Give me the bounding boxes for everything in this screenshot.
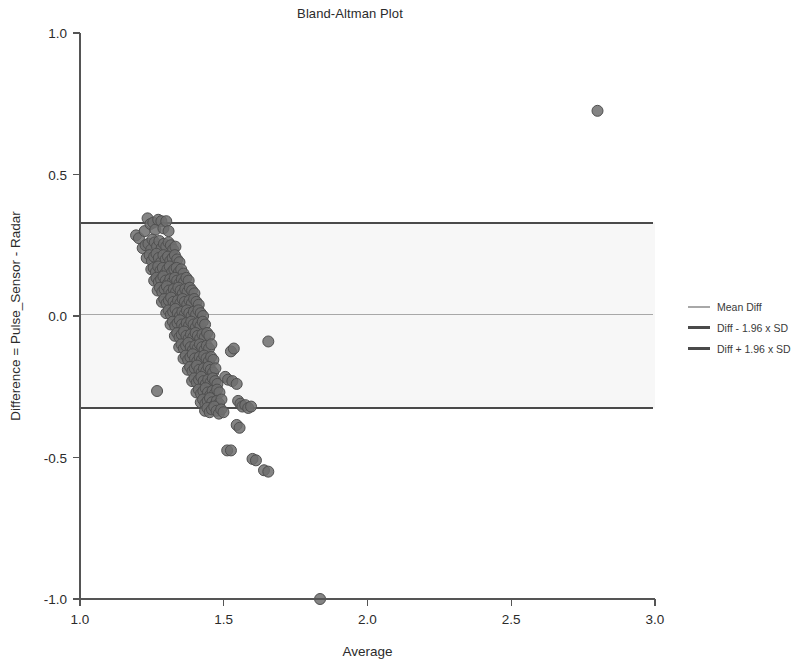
- data-point: [206, 339, 217, 350]
- x-tick-label: 2.0: [358, 612, 377, 627]
- y-tick-label: 1.0: [48, 26, 67, 41]
- data-point: [246, 401, 257, 412]
- legend-swatch-line: [688, 326, 710, 329]
- data-point: [228, 343, 239, 354]
- x-tick-label: 1.5: [214, 612, 233, 627]
- x-tick-label: 1.0: [71, 612, 90, 627]
- bland-altman-figure: Bland-Altman Plot Bland-Altman Plot for …: [0, 0, 805, 663]
- x-tick-label: 2.5: [502, 612, 521, 627]
- data-point: [234, 422, 245, 433]
- y-tick-label: 0.5: [48, 168, 67, 183]
- data-point: [231, 378, 242, 389]
- x-axis-title: Average: [342, 644, 392, 659]
- data-point: [250, 455, 261, 466]
- legend-item-label: Diff - 1.96 x SD: [717, 322, 788, 334]
- y-tick-label: -0.5: [44, 451, 67, 466]
- legend-item-2: Diff + 1.96 x SD: [688, 338, 800, 359]
- legend-item-label: Diff + 1.96 x SD: [717, 343, 791, 355]
- legend-swatch-line: [688, 306, 710, 308]
- data-point: [592, 105, 603, 116]
- x-tick-label: 3.0: [646, 612, 665, 627]
- legend: Mean DiffDiff - 1.96 x SDDiff + 1.96 x S…: [688, 296, 800, 359]
- y-tick-label: -1.0: [44, 592, 67, 607]
- legend-swatch-line: [688, 347, 710, 350]
- data-point: [163, 226, 174, 237]
- data-point: [161, 216, 172, 227]
- legend-item-0: Mean Diff: [688, 296, 800, 317]
- y-tick-label: 0.0: [48, 309, 67, 324]
- legend-item-1: Diff - 1.96 x SD: [688, 317, 800, 338]
- plot-canvas: 1.01.52.02.53.01.00.50.0-0.5-1.0AverageD…: [0, 0, 805, 663]
- data-point: [225, 445, 236, 456]
- data-point: [210, 363, 221, 374]
- data-point: [263, 466, 274, 477]
- data-point: [218, 407, 229, 418]
- data-point: [263, 336, 274, 347]
- legend-item-label: Mean Diff: [717, 301, 762, 313]
- data-point: [152, 386, 163, 397]
- y-axis-title: Difference = Pulse_Sensor - Radar: [8, 211, 23, 421]
